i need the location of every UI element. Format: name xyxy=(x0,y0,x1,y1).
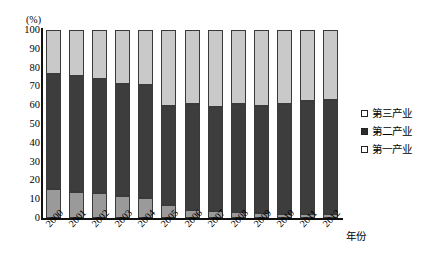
legend-swatch-icon xyxy=(361,110,368,117)
bar-2008 xyxy=(231,30,246,218)
chart-legend: 第三产业第二产业第一产业 xyxy=(361,104,433,158)
bar-segment-第三产业 xyxy=(69,30,84,76)
bar-2000 xyxy=(46,30,61,218)
bar-segment-第三产业 xyxy=(115,30,130,84)
bar-segment-第三产业 xyxy=(277,30,292,104)
bar-segment-第三产业 xyxy=(161,30,176,106)
bar-segment-第三产业 xyxy=(185,30,200,104)
bar-segment-第二产业 xyxy=(185,104,200,209)
legend-item-label: 第三产业 xyxy=(372,108,412,119)
bar-segment-第三产业 xyxy=(208,30,223,107)
y-axis-tick: 0 xyxy=(14,213,40,223)
bar-2011 xyxy=(300,30,315,218)
bar-segment-第三产业 xyxy=(138,30,153,85)
bar-segment-第二产业 xyxy=(69,76,84,192)
bar-2005 xyxy=(161,30,176,218)
legend-swatch-icon xyxy=(361,128,368,135)
y-axis-tick: 40 xyxy=(14,138,40,148)
bar-2003 xyxy=(115,30,130,218)
bar-segment-第二产业 xyxy=(323,100,338,214)
y-axis-tick: 70 xyxy=(14,81,40,91)
y-axis-tick: 30 xyxy=(14,157,40,167)
bar-segment-第二产业 xyxy=(115,84,130,195)
legend-item-secondary: 第二产业 xyxy=(361,122,433,140)
plot-area xyxy=(42,30,342,218)
legend-swatch-icon xyxy=(361,146,368,153)
y-axis-tick: 90 xyxy=(14,44,40,54)
y-axis-tick: 50 xyxy=(14,119,40,129)
y-axis-tick: 10 xyxy=(14,194,40,204)
legend-item-tertiary: 第三产业 xyxy=(361,104,433,122)
bar-segment-第三产业 xyxy=(46,30,61,74)
bar-2009 xyxy=(254,30,269,218)
y-axis-tick: 80 xyxy=(14,63,40,73)
bar-2006 xyxy=(185,30,200,218)
bar-segment-第二产业 xyxy=(161,106,176,205)
y-axis-tick: 60 xyxy=(14,100,40,110)
bar-2002 xyxy=(92,30,107,218)
bar-segment-第三产业 xyxy=(323,30,338,100)
bar-2012 xyxy=(323,30,338,218)
legend-item-label: 第二产业 xyxy=(372,126,412,137)
bar-2004 xyxy=(138,30,153,218)
bar-segment-第二产业 xyxy=(231,104,246,213)
bar-segment-第三产业 xyxy=(254,30,269,106)
bar-segment-第二产业 xyxy=(46,74,61,189)
bar-segment-第二产业 xyxy=(208,107,223,211)
bar-segment-第二产业 xyxy=(92,79,107,192)
bar-2007 xyxy=(208,30,223,218)
y-axis-tick: 20 xyxy=(14,175,40,185)
bar-2001 xyxy=(69,30,84,218)
bar-segment-第二产业 xyxy=(254,106,269,214)
legend-item-label: 第一产业 xyxy=(372,144,412,155)
bar-segment-第三产业 xyxy=(92,30,107,79)
bar-2010 xyxy=(277,30,292,218)
y-axis-tick-labels: 1009080706050403020100 xyxy=(14,30,40,218)
legend-item-primary: 第一产业 xyxy=(361,140,433,158)
y-axis-tick: 100 xyxy=(14,25,40,35)
bar-segment-第三产业 xyxy=(300,30,315,101)
bar-segment-第二产业 xyxy=(138,85,153,198)
stacked-bar-chart: (%) 1009080706050403020100 年份 第三产业第二产业第一… xyxy=(0,0,438,268)
bar-segment-第二产业 xyxy=(300,101,315,214)
bar-segment-第三产业 xyxy=(231,30,246,104)
bar-segment-第二产业 xyxy=(277,104,292,214)
x-axis-title: 年份 xyxy=(346,231,366,242)
